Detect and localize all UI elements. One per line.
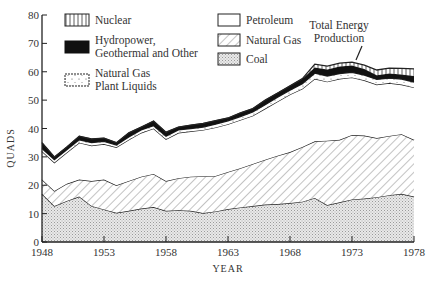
x-tick-label: 1958: [155, 246, 178, 258]
x-tick-label: 1973: [341, 246, 364, 258]
legend-label-petroleum: Petroleum: [246, 14, 293, 26]
nuclear-swatch: [65, 14, 89, 26]
legend: Nuclear Hydropower, Geothermal and Other…: [65, 14, 302, 93]
x-tick-label: 1968: [279, 246, 302, 258]
x-tick-label: 1978: [403, 246, 426, 258]
x-axis-title: YEAR: [212, 263, 243, 274]
total-energy-annotation: Total Energy Production: [309, 19, 369, 60]
natural-gas-swatch: [218, 34, 240, 46]
annotation-line-2: Production: [314, 32, 365, 44]
y-tick-label: 50: [28, 94, 40, 106]
legend-item-coal: Coal: [218, 53, 268, 65]
legend-label-hydro-2: Geothermal and Other: [95, 47, 198, 59]
y-tick-label: 70: [28, 37, 40, 49]
ngpl-swatch: [65, 74, 89, 86]
x-axis: 1948195319581963196819731978 YEAR: [31, 236, 426, 274]
legend-label-coal: Coal: [246, 53, 268, 65]
y-axis: 01020304050607080 QUADS: [5, 9, 47, 248]
coal-swatch: [218, 53, 240, 65]
y-tick-label: 30: [28, 151, 40, 163]
y-tick-label: 10: [28, 208, 40, 220]
x-tick-label: 1948: [31, 246, 54, 258]
x-tick-label: 1963: [217, 246, 240, 258]
x-tick-label: 1953: [93, 246, 116, 258]
legend-label-hydro-1: Hydropower,: [95, 34, 156, 47]
legend-label-nuclear: Nuclear: [95, 14, 132, 26]
legend-item-ngpl: Natural Gas Plant Liquids: [65, 67, 157, 93]
legend-item-petroleum: Petroleum: [218, 14, 293, 26]
legend-label-ngpl-1: Natural Gas: [95, 67, 151, 79]
annotation-arrow: [356, 46, 362, 60]
annotation-line-1: Total Energy: [309, 19, 369, 32]
y-tick-label: 20: [28, 179, 40, 191]
hydro-swatch: [65, 41, 89, 53]
legend-label-ngpl-2: Plant Liquids: [95, 80, 157, 93]
petroleum-swatch: [218, 14, 240, 26]
legend-item-hydro: Hydropower, Geothermal and Other: [65, 34, 198, 59]
y-tick-label: 60: [28, 66, 40, 78]
legend-item-natural-gas: Natural Gas: [218, 34, 302, 46]
y-tick-label: 40: [28, 123, 40, 135]
energy-production-chart: 01020304050607080 QUADS 1948195319581963…: [0, 0, 432, 283]
y-tick-label: 80: [28, 9, 40, 21]
legend-label-natural-gas: Natural Gas: [246, 34, 302, 46]
legend-item-nuclear: Nuclear: [65, 14, 132, 26]
y-axis-title: QUADS: [5, 128, 16, 167]
